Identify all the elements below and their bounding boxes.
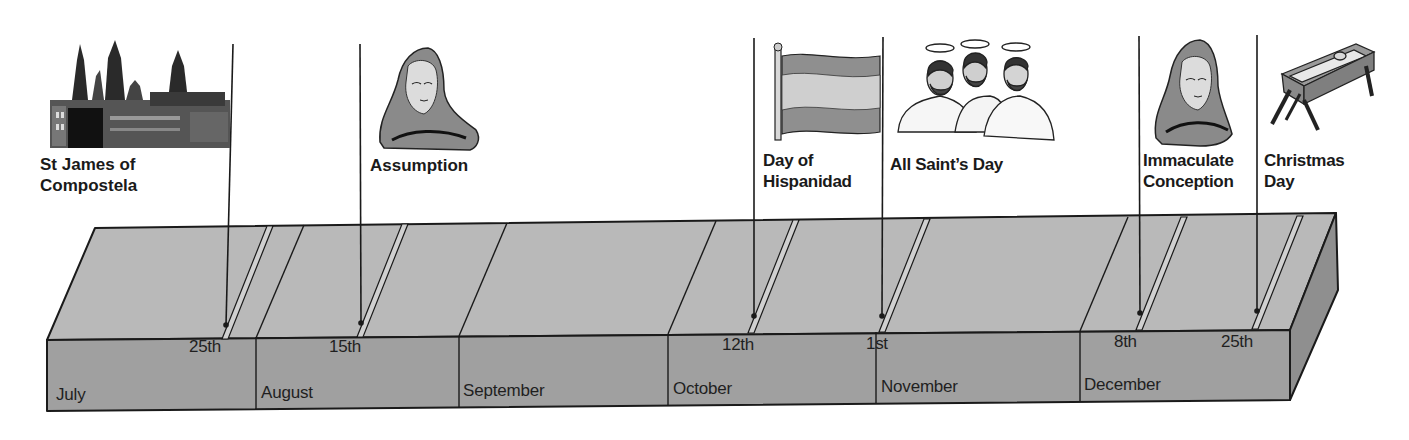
- spanish-flag-icon: [774, 43, 880, 140]
- date-label-october-12: 12th: [722, 335, 754, 355]
- event-label-hispanidad: Day of Hispanidad: [763, 150, 852, 192]
- month-label-august: August: [261, 383, 313, 403]
- event-label-all-saints: All Saint’s Day: [890, 154, 1003, 175]
- event-label-immaculate-conception: Immaculate Conception: [1143, 150, 1234, 192]
- event-label-st-james: St James of Compostela: [40, 154, 137, 196]
- month-label-october: October: [673, 379, 732, 399]
- month-label-november: November: [881, 377, 958, 397]
- virgin-mary-icon: [1155, 40, 1232, 146]
- month-label-july: July: [56, 385, 85, 405]
- event-label-assumption: Assumption: [370, 155, 468, 176]
- date-label-november-1: 1st: [866, 334, 888, 354]
- month-label-september: September: [463, 381, 544, 401]
- date-label-july-25: 25th: [189, 337, 221, 357]
- event-label-christmas: Christmas Day: [1264, 150, 1344, 192]
- saints-icon: [898, 40, 1054, 140]
- month-label-december: December: [1084, 375, 1161, 395]
- date-label-december-8: 8th: [1114, 332, 1137, 352]
- date-label-august-15: 15th: [329, 337, 361, 357]
- cathedral-icon: [50, 40, 230, 148]
- manger-icon: [1272, 44, 1374, 130]
- festival-timeline: St James of Compostela Assumption Day of…: [0, 0, 1409, 440]
- date-label-december-25: 25th: [1221, 332, 1253, 352]
- virgin-mary-icon: [380, 48, 479, 150]
- timeline-bar-graphic: [0, 0, 1409, 440]
